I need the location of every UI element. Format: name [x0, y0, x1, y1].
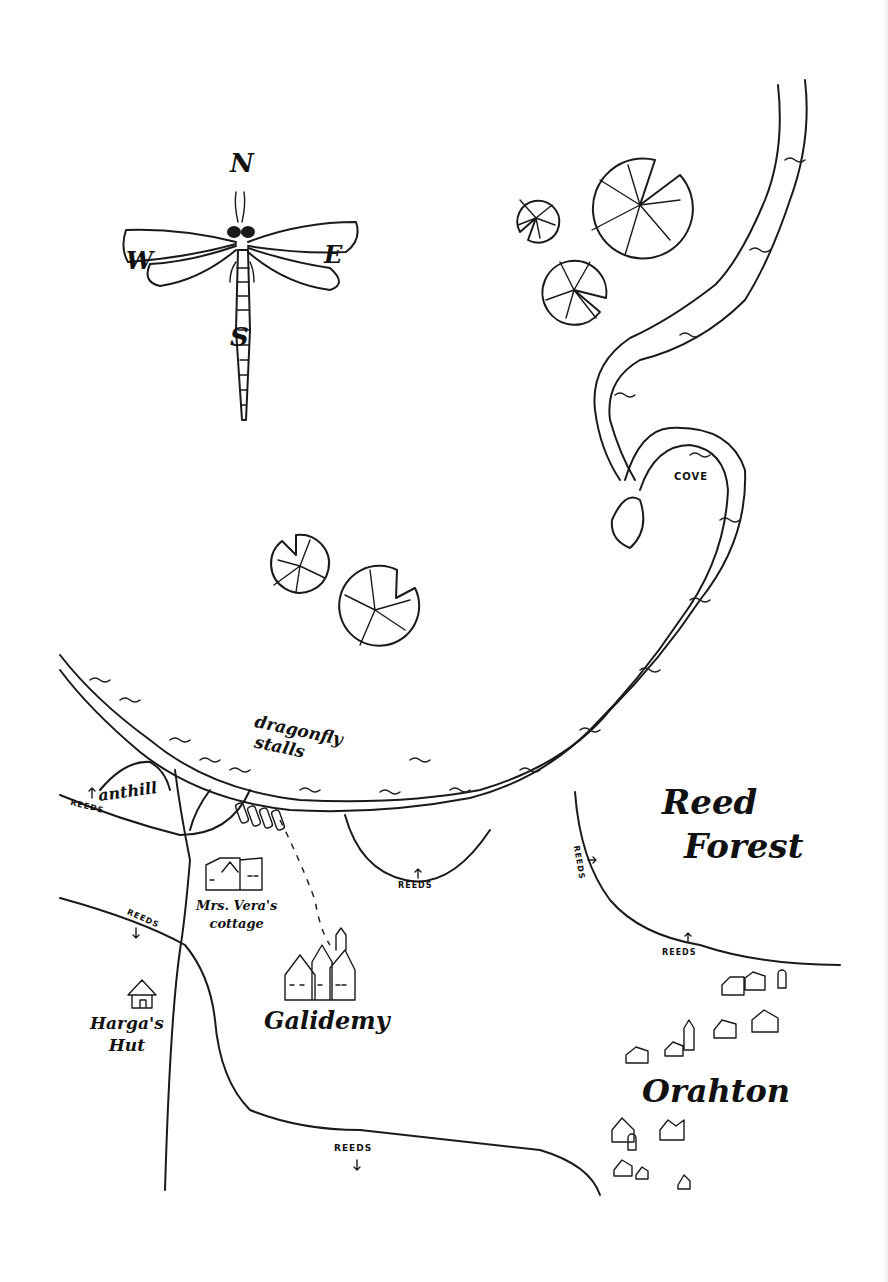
galidemy-castle-icon	[285, 928, 355, 1000]
reed-forest-label: Reed Forest	[662, 780, 803, 868]
reeds-label: REEDS	[334, 1143, 372, 1153]
lily-pad-icon	[592, 159, 693, 259]
lily-pad-icon	[517, 200, 559, 243]
reeds-label: REEDS	[662, 948, 697, 957]
reeds-label: REEDS	[398, 881, 433, 890]
compass-east-label: E	[324, 240, 342, 269]
page-edge-shadow	[882, 0, 888, 1282]
lily-pads	[271, 159, 693, 646]
lily-pad-icon	[271, 535, 329, 593]
lily-pad-icon	[542, 261, 606, 325]
map-canvas: N W E S COVE dragonfly stalls anthill Mr…	[0, 0, 888, 1282]
hargas-hut-label: Harga's Hut	[90, 1012, 164, 1056]
reed-forest-label-line2: Forest	[662, 824, 803, 868]
orahton-label: Orahton	[642, 1072, 790, 1110]
river	[60, 80, 807, 811]
hargas-hut-icon	[128, 980, 156, 1008]
cottage-label-line1: Mrs. Vera's	[196, 897, 277, 915]
galidemy-label: Galidemy	[264, 1006, 390, 1035]
cove-label: COVE	[674, 471, 708, 482]
compass-south-label: S	[230, 322, 249, 352]
reeds-arrow-icons	[89, 788, 691, 1170]
mrs-veras-cottage-label: Mrs. Vera's cottage	[196, 897, 277, 933]
compass-west-label: W	[126, 246, 153, 275]
dragonfly-compass-icon	[123, 192, 357, 420]
hargas-hut-label-line2: Hut	[90, 1034, 164, 1056]
compass-north-label: N	[230, 148, 254, 178]
hargas-hut-label-line1: Harga's	[90, 1012, 164, 1034]
dragonfly-stalls-icon	[235, 802, 285, 831]
reed-forest-label-line1: Reed	[662, 780, 803, 824]
lily-pad-icon	[339, 566, 419, 646]
cottage-label-line2: cottage	[196, 915, 277, 933]
cottage-icon	[206, 858, 262, 890]
